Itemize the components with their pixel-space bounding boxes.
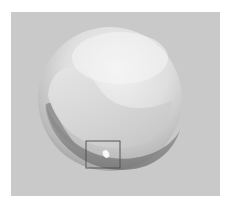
sphere-top-highlight [72,32,168,84]
sphere-figure [0,0,231,207]
